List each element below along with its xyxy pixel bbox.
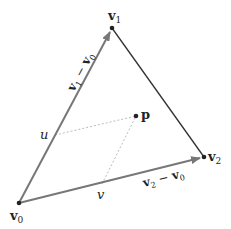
diagram-canvas: v0 v1 v2 p u v v1 − v0 v2 − v0: [0, 0, 231, 229]
label-p: p: [141, 107, 150, 122]
label-v1: v1: [107, 8, 121, 25]
label-u: u: [40, 127, 48, 142]
point-v1: [110, 26, 115, 31]
dashed-line-u-to-p: [55, 116, 136, 135]
label-v2-minus-v0: v2 − v0: [140, 166, 185, 192]
point-v0: [17, 201, 22, 206]
point-v2: [202, 155, 207, 160]
label-v1-minus-v0: v1 − v0: [64, 50, 98, 95]
dashed-line-v-to-p: [102, 116, 136, 184]
point-p: [134, 114, 139, 119]
label-v-param: v: [97, 187, 105, 202]
barycentric-diagram: v0 v1 v2 p u v v1 − v0 v2 − v0: [0, 0, 231, 229]
label-v2: v2: [207, 149, 221, 166]
label-v0: v0: [9, 208, 24, 225]
edge-v1-v2: [112, 28, 204, 157]
